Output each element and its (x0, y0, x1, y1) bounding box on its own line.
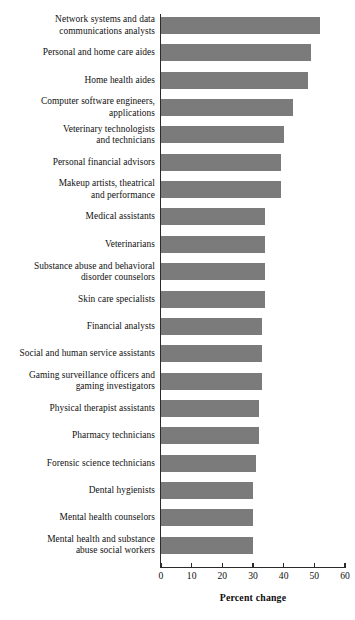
category-label: Medical assistants (3, 211, 155, 222)
bar (161, 373, 262, 390)
bar-row: Network systems and data communications … (0, 12, 355, 39)
bar-row: Personal and home care aides (0, 39, 355, 66)
bar-track (161, 291, 265, 308)
bar-track (161, 17, 320, 34)
category-label: Financial analysts (3, 321, 155, 332)
category-label: Mental health and substance abuse social… (3, 534, 155, 557)
bar-row: Social and human service assistants (0, 340, 355, 367)
category-label: Personal financial advisors (3, 157, 155, 168)
bar-row: Gaming surveillance officers and gaming … (0, 368, 355, 395)
bar-row: Mental health and substance abuse social… (0, 532, 355, 559)
x-axis-tick (160, 563, 161, 568)
bar-track (161, 455, 256, 472)
bar-track (161, 400, 259, 417)
bar (161, 181, 281, 198)
bar-track (161, 126, 284, 143)
x-axis-title: Percent change (160, 592, 346, 603)
category-label: Dental hygienists (3, 485, 155, 496)
bar-track (161, 181, 281, 198)
bar-row: Personal financial advisors (0, 149, 355, 176)
bar (161, 44, 311, 61)
bar (161, 99, 293, 116)
percent-change-bar-chart: Network systems and data communications … (0, 0, 355, 620)
bar-track (161, 509, 253, 526)
bar-row: Veterinarians (0, 231, 355, 258)
plot-area: Network systems and data communications … (0, 12, 355, 568)
x-axis-tick (314, 563, 315, 568)
bar (161, 318, 262, 335)
bar-row: Dental hygienists (0, 477, 355, 504)
category-label: Personal and home care aides (3, 47, 155, 58)
bar (161, 482, 253, 499)
bar-row: Computer software engineers, application… (0, 94, 355, 121)
x-axis-tick-label: 20 (207, 570, 237, 581)
bar-track (161, 72, 308, 89)
x-axis-tick-label: 30 (238, 570, 268, 581)
category-label: Veterinary technologists and technicians (3, 124, 155, 147)
bar-row: Makeup artists, theatrical and performan… (0, 176, 355, 203)
bar-row: Substance abuse and behavioral disorder … (0, 258, 355, 285)
bar-row: Medical assistants (0, 203, 355, 230)
bar (161, 291, 265, 308)
bar-row: Veterinary technologists and technicians (0, 121, 355, 148)
bar-track (161, 99, 293, 116)
x-axis-tick (191, 563, 192, 568)
category-label: Mental health counselors (3, 512, 155, 523)
x-axis-tick (252, 563, 253, 568)
x-axis-tick-label: 10 (177, 570, 207, 581)
bar-track (161, 427, 259, 444)
x-axis-tick-label: 60 (330, 570, 355, 581)
x-axis-tick-label: 0 (146, 570, 176, 581)
category-label: Network systems and data communications … (3, 14, 155, 37)
category-label: Computer software engineers, application… (3, 96, 155, 119)
bar-row: Mental health counselors (0, 504, 355, 531)
bar (161, 537, 253, 554)
bar-row: Home health aides (0, 67, 355, 94)
category-label: Skin care specialists (3, 294, 155, 305)
category-label: Substance abuse and behavioral disorder … (3, 261, 155, 284)
category-label: Home health aides (3, 75, 155, 86)
x-axis-tick-label: 40 (269, 570, 299, 581)
bar (161, 154, 281, 171)
bar (161, 17, 320, 34)
bar-track (161, 482, 253, 499)
bar-track (161, 345, 262, 362)
bar (161, 72, 308, 89)
bar-row: Financial analysts (0, 313, 355, 340)
y-axis-line (160, 14, 161, 567)
bar (161, 427, 259, 444)
x-axis-tick (222, 563, 223, 568)
category-label: Gaming surveillance officers and gaming … (3, 370, 155, 393)
bar-track (161, 154, 281, 171)
category-label: Physical therapist assistants (3, 403, 155, 414)
category-label: Forensic science technicians (3, 458, 155, 469)
bar-track (161, 318, 262, 335)
category-label: Social and human service assistants (3, 348, 155, 359)
x-axis-tick (283, 563, 284, 568)
bar (161, 345, 262, 362)
x-axis-tick (344, 563, 345, 568)
bar-track (161, 44, 311, 61)
bar (161, 455, 256, 472)
x-axis-tick-label: 50 (299, 570, 329, 581)
bar (161, 263, 265, 280)
bar (161, 400, 259, 417)
category-label: Pharmacy technicians (3, 430, 155, 441)
bar (161, 126, 284, 143)
bar-track (161, 263, 265, 280)
category-label: Makeup artists, theatrical and performan… (3, 178, 155, 201)
bar-track (161, 208, 265, 225)
bar-row: Skin care specialists (0, 286, 355, 313)
bar-row: Physical therapist assistants (0, 395, 355, 422)
bar-row: Forensic science technicians (0, 450, 355, 477)
category-label: Veterinarians (3, 239, 155, 250)
bar-track (161, 373, 262, 390)
bar (161, 236, 265, 253)
bar (161, 509, 253, 526)
bar (161, 208, 265, 225)
bar-track (161, 236, 265, 253)
bar-row: Pharmacy technicians (0, 422, 355, 449)
bar-track (161, 537, 253, 554)
